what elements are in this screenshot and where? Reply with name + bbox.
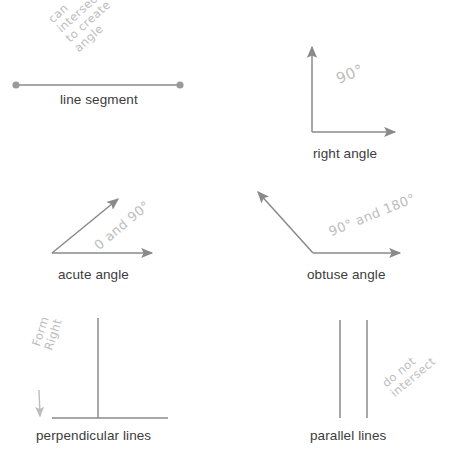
label-right-angle: right angle xyxy=(313,146,377,161)
label-line-segment: line segment xyxy=(60,92,138,107)
figure-right-angle xyxy=(295,35,415,145)
perpendicular-annotation-arrow-icon xyxy=(24,388,64,426)
annotation-line-segment: can intersect to create angle xyxy=(46,0,122,54)
label-acute-angle: acute angle xyxy=(58,267,129,282)
figure-parallel-lines xyxy=(330,312,390,427)
label-parallel-lines: parallel lines xyxy=(310,428,386,443)
parallel-lines-graphic xyxy=(330,312,390,427)
label-perpendicular-lines: perpendicular lines xyxy=(36,428,151,443)
segment-endpoint-left xyxy=(12,81,19,88)
right-angle-graphic xyxy=(295,35,415,145)
label-obtuse-angle: obtuse angle xyxy=(307,267,386,282)
segment-endpoint-right xyxy=(176,81,183,88)
worksheet-canvas: line segment can intersect to create ang… xyxy=(0,0,458,462)
obtuse-angle-diagonal-ray xyxy=(258,192,313,253)
